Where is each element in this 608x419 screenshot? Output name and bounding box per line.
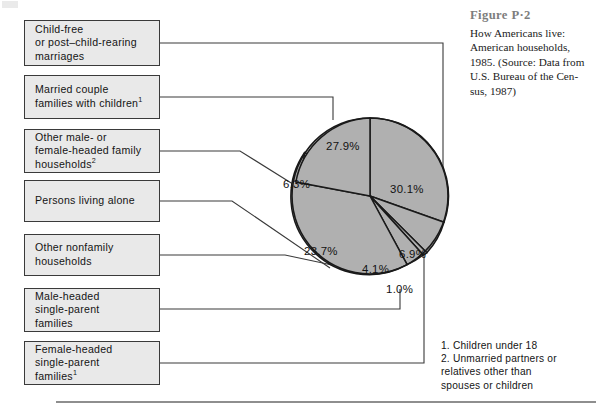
leader-male-single-parent [160,289,400,309]
footnote-line: spouses or children [441,379,605,392]
figure-number: Figure P·2 [470,8,602,23]
page-bottom-rule [56,401,596,403]
figure-caption-text: How Americans live: American households,… [470,26,602,99]
pie-value-23-7: 23.7% [304,245,338,257]
pie-value-6-3: 6.3% [283,178,310,190]
label-line: single-parent [35,303,159,317]
label-box-other-nonfamily-households[interactable]: Other nonfamily households [24,234,160,276]
caption-line: American households, [470,40,602,55]
pie-value-30-1: 30.1% [390,183,424,195]
label-line: Child-free [35,23,159,37]
figure-canvas: 30.1% 27.9% 6.3% 23.7% 4.1% 1.0% 6.9% Ch… [0,0,608,419]
pie-value-6-9: 6.9% [399,248,426,260]
caption-line: How Americans live: [470,26,602,41]
label-box-male-headed-single-parent[interactable]: Male-headed single-parent families [24,288,160,332]
figure-caption: Figure P·2 How Americans live: American … [470,8,602,99]
label-box-persons-living-alone[interactable]: Persons living alone [24,180,160,222]
label-line: single-parent [35,356,159,370]
caption-line: 1985. (Source: Data from [470,55,602,70]
leader-married-couple [160,97,333,120]
label-line: Other male- or [35,131,159,145]
footnote-ref: 2 [92,156,96,165]
pie-value-27-9: 27.9% [326,140,360,152]
leader-other-headed [160,151,296,186]
label-box-other-headed-family-households[interactable]: Other male- or female-headed family hous… [24,129,160,173]
label-line: marriages [35,50,159,64]
pie-value-4-1: 4.1% [362,263,389,275]
label-box-child-free-marriages[interactable]: Child-free or post–child-rearing marriag… [24,20,160,66]
footnote-line: relatives other than [441,365,605,378]
label-line: Other nonfamily [35,241,159,255]
label-line: Female-headed [35,343,159,357]
label-line: families with children1 [35,97,159,111]
figure-footnotes: 1. Children under 18 2. Unmarried partne… [441,339,605,392]
footnote-line: 1. Children under 18 [441,339,605,352]
label-line: Male-headed [35,290,159,304]
label-box-female-headed-single-parent[interactable]: Female-headed single-parent families1 [24,341,160,385]
label-line: or post–child-rearing [35,36,159,50]
label-line: families [35,317,159,331]
label-line: households2 [35,158,159,172]
label-line: households [35,255,159,269]
label-line: Persons living alone [35,194,159,208]
pie-value-1-0: 1.0% [386,283,413,295]
label-line: families1 [35,370,159,384]
footnote-line: 2. Unmarried partners or [441,352,605,365]
caption-line: sus, 1987) [470,84,602,99]
footnote-ref: 1 [138,95,142,104]
label-line: female-headed family [35,144,159,158]
footnote-ref: 1 [73,368,77,377]
label-box-married-couple-families[interactable]: Married couple families with children1 [24,75,160,119]
caption-line: U.S. Bureau of the Cen- [470,69,602,84]
